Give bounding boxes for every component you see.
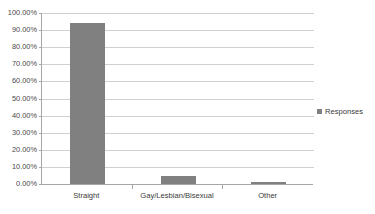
y-axis-tick xyxy=(39,184,42,185)
x-axis-tick xyxy=(132,185,133,189)
bar xyxy=(161,176,196,184)
y-axis-tick-label: 10.00% xyxy=(0,163,37,171)
y-axis-tick-label: 0.00% xyxy=(0,180,37,188)
x-axis-tick xyxy=(222,185,223,189)
y-axis-tick-label: 80.00% xyxy=(0,43,37,51)
y-axis-tick-label: 40.00% xyxy=(0,112,37,120)
legend-swatch-icon xyxy=(317,109,322,114)
y-axis-tick-label: 70.00% xyxy=(0,60,37,68)
y-axis-tick-labels: 0.00%10.00%20.00%30.00%40.00%50.00%60.00… xyxy=(0,13,37,185)
legend: Responses xyxy=(317,107,363,116)
bar xyxy=(70,23,105,184)
y-axis-tick-label: 100.00% xyxy=(0,9,37,17)
bar xyxy=(251,182,286,184)
y-axis-tick-label: 60.00% xyxy=(0,77,37,85)
x-axis-category-label: Other xyxy=(222,191,313,201)
chart-title-cropped xyxy=(0,0,375,7)
y-axis-tick-label: 50.00% xyxy=(0,95,37,103)
legend-label-responses: Responses xyxy=(325,107,363,116)
bar-chart: 0.00%10.00%20.00%30.00%40.00%50.00%60.00… xyxy=(0,0,375,214)
y-axis-tick-label: 20.00% xyxy=(0,146,37,154)
x-axis-category-labels: StraightGay/Lesbian/BisexualOther xyxy=(41,191,313,205)
x-axis-category-label: Straight xyxy=(41,191,132,201)
x-axis-category-label: Gay/Lesbian/Bisexual xyxy=(132,191,223,201)
bar-series-responses xyxy=(42,13,314,184)
plot-area xyxy=(41,13,313,185)
y-axis-tick-label: 30.00% xyxy=(0,129,37,137)
y-axis-tick-label: 90.00% xyxy=(0,26,37,34)
